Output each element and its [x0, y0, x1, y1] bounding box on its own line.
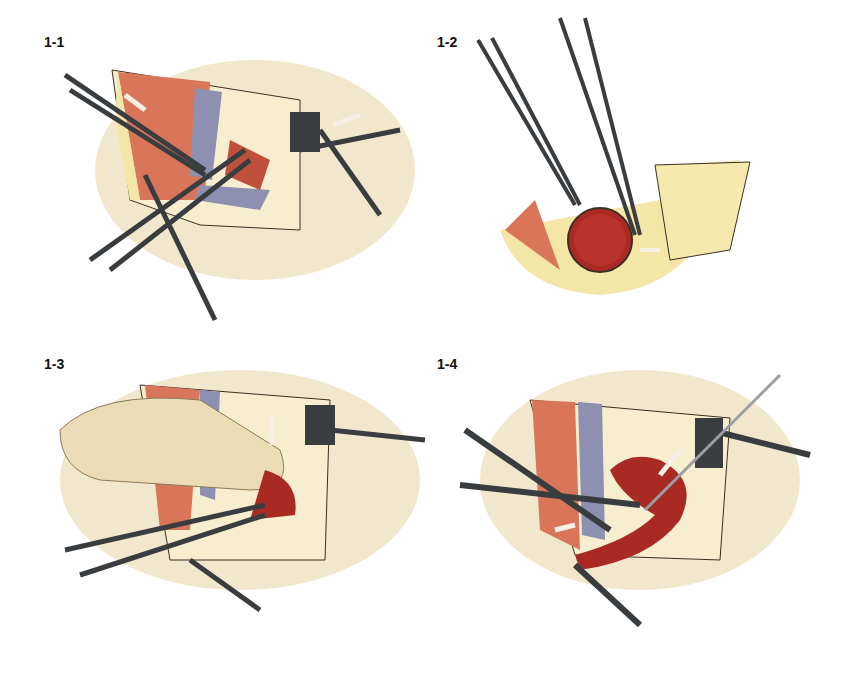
illustration-finger-retraction	[0, 330, 430, 677]
panel-1-2: 1-2	[430, 0, 853, 330]
panel-1-4: 1-4	[430, 330, 853, 677]
illustration-vessel-mobilization	[430, 330, 853, 677]
panel-1-3: 1-3	[0, 330, 430, 677]
panel-1-1: 1-1	[0, 0, 430, 330]
illustration-retraction-exposure	[0, 0, 430, 330]
illustration-vessel-dissection	[430, 0, 853, 330]
